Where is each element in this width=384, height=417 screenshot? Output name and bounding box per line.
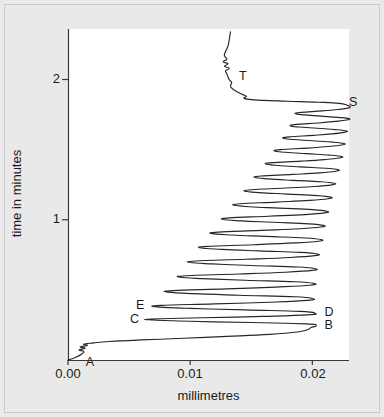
x-tick-label-2: 0.02 (300, 366, 325, 381)
point-label-e: E (136, 298, 144, 312)
y-tick-label-2: 2 (44, 71, 60, 86)
point-label-s: S (349, 95, 357, 109)
y-axis-title: time in minutes (9, 134, 24, 254)
figure-container: 0.00 0.01 0.02 1 2 millimetres time in m… (0, 0, 384, 417)
point-label-b: B (324, 318, 332, 332)
point-label-d: D (324, 305, 333, 319)
plot-area (68, 29, 349, 360)
y-tick-label-1: 1 (44, 211, 60, 226)
x-tick-label-1: 0.01 (177, 366, 202, 381)
x-axis-title: millimetres (68, 388, 349, 403)
point-label-t: T (239, 69, 247, 83)
point-label-a: A (86, 355, 94, 369)
x-tick-label-0: 0.00 (55, 366, 80, 381)
point-label-c: C (130, 312, 139, 326)
